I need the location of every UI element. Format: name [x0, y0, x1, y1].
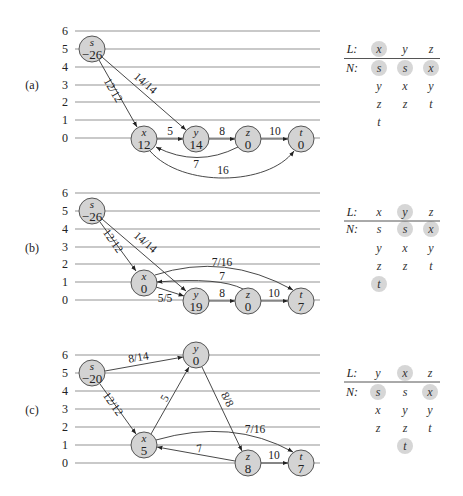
diagram-b: (b) 6 5 4 3 2 1 0 12/12 14/14 7/16 7 [25, 186, 440, 314]
N-entry: y [401, 403, 408, 417]
N-entry: y [427, 241, 434, 255]
edge-label: 8/14 [127, 349, 149, 364]
y-tick: 4 [62, 384, 68, 398]
y-tick: 1 [62, 275, 68, 289]
vertex-s: s−26 [79, 36, 105, 62]
edge-label: 8 [219, 125, 225, 137]
N-entry: z [376, 97, 382, 111]
edge-label: 12/12 [101, 390, 126, 419]
vertex-y: y14 [183, 126, 209, 152]
svg-text:0: 0 [141, 281, 148, 296]
y-tick: 6 [62, 24, 68, 38]
svg-text:0: 0 [193, 353, 200, 368]
L-entry: z [427, 366, 433, 380]
svg-text:5: 5 [141, 443, 148, 458]
L-entry: y [401, 42, 408, 56]
L-label: L: [346, 42, 358, 56]
N-entry: x [374, 403, 381, 417]
N-label: N: [345, 222, 358, 236]
N-entry: t [377, 115, 381, 129]
y-tick: 0 [62, 131, 68, 145]
N-entry: s [403, 222, 408, 236]
y-tick: 4 [62, 60, 68, 74]
N-entry: y [427, 79, 434, 93]
L-entry: x [375, 205, 382, 219]
edge-label: 16 [217, 164, 229, 176]
y-tick: 0 [62, 456, 68, 470]
N-entry: t [428, 421, 432, 435]
list-table: L: y x z N: s x z s y z t x y t [344, 365, 440, 454]
edge-label: 5/5 [158, 292, 173, 304]
svg-text:19: 19 [190, 299, 203, 314]
push-relabel-figure: (a) 6 5 4 3 2 1 0 12/12 14/14 5 8 [0, 0, 463, 496]
L-entry: y [374, 366, 381, 380]
N-entry: t [429, 97, 433, 111]
y-tick: 5 [62, 42, 68, 56]
vertex-y: y0 [183, 342, 209, 368]
N-entry: y [375, 241, 382, 255]
N-entry: s [377, 222, 382, 236]
svg-text:14: 14 [190, 137, 204, 152]
list-table: L: x y z N: s y z t s x z x y t [344, 204, 440, 292]
svg-text:−20: −20 [82, 371, 102, 386]
N-entry: t [429, 259, 433, 273]
N-entry: s [403, 61, 408, 75]
N-label: N: [345, 385, 358, 399]
panel-label: (c) [25, 403, 38, 417]
svg-text:0: 0 [245, 137, 252, 152]
y-tick: 5 [62, 366, 68, 380]
edge-label: 12/12 [102, 76, 126, 105]
edge-label: 8 [219, 287, 225, 299]
N-entry: z [402, 97, 408, 111]
N-entry: z [402, 421, 408, 435]
N-entry: z [375, 421, 381, 435]
vertex-s: s−20 [79, 360, 105, 386]
svg-text:7: 7 [298, 299, 305, 314]
diagram-c: (c) 6 5 4 3 2 1 0 8/14 12/12 5 8/8 [25, 342, 440, 476]
N-entry: s [403, 385, 408, 399]
N-entry: x [401, 79, 408, 93]
N-entry: x [426, 385, 433, 399]
edge-label: 8/8 [219, 390, 236, 409]
edge-label: 7/16 [212, 256, 233, 268]
vertex-x: x5 [131, 432, 157, 458]
y-tick: 2 [62, 257, 68, 271]
vertex-z: z0 [235, 288, 261, 314]
y-tick: 2 [62, 420, 68, 434]
vertex-y: y19 [183, 288, 209, 314]
N-entry: y [375, 79, 382, 93]
N-entry: x [401, 241, 408, 255]
panel-label: (a) [25, 78, 38, 92]
edge-label: 14/14 [132, 229, 160, 255]
y-tick: 3 [62, 240, 68, 254]
L-entry: y [401, 205, 408, 219]
svg-text:0: 0 [245, 299, 252, 314]
N-entry: y [426, 403, 433, 417]
y-tick: 6 [62, 186, 68, 200]
N-entry: x [427, 222, 434, 236]
L-entry: x [401, 366, 408, 380]
edge-label: 10 [268, 287, 280, 299]
L-label: L: [346, 366, 358, 380]
edges: 12/12 14/14 5 8 10 7 16 [99, 57, 294, 178]
y-tick: 3 [62, 78, 68, 92]
N-label: N: [345, 61, 358, 75]
N-entry: s [377, 61, 382, 75]
N-entry: z [376, 259, 382, 273]
edge-label: 14/14 [132, 70, 160, 96]
y-tick: 4 [62, 222, 68, 236]
vertex-t: t7 [288, 450, 314, 476]
y-tick: 2 [62, 95, 68, 109]
svg-text:8: 8 [245, 461, 252, 476]
vertex-x: x0 [131, 270, 157, 296]
panel-label: (b) [25, 241, 39, 255]
y-tick: 1 [62, 113, 68, 127]
vertex-z: z8 [235, 450, 261, 476]
edge-label: 5 [167, 125, 173, 137]
vertex-x: x12 [131, 126, 157, 152]
y-tick: 1 [62, 438, 68, 452]
L-entry: z [428, 205, 434, 219]
edge-label: 7 [193, 158, 199, 170]
L-entry: z [428, 42, 434, 56]
N-entry: s [376, 385, 381, 399]
